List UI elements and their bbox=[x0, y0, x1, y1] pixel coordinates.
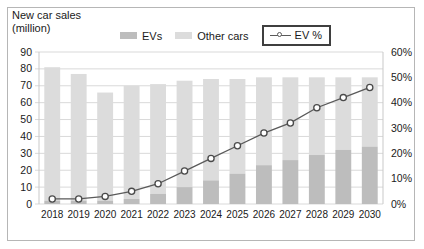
legend-swatch-evs bbox=[120, 32, 137, 39]
legend-item-ev-percent[interactable]: EV % bbox=[262, 25, 332, 46]
legend-item-other-cars[interactable]: Other cars bbox=[175, 30, 248, 42]
chart-axis-title: New car sales (million) bbox=[12, 9, 81, 35]
legend-label-ev-percent: EV % bbox=[295, 29, 323, 41]
legend-line-marker-icon bbox=[270, 31, 291, 40]
legend-label-evs: EVs bbox=[142, 30, 162, 42]
chart-legend: EVs Other cars EV % bbox=[120, 26, 331, 45]
legend-label-other-cars: Other cars bbox=[197, 30, 248, 42]
chart-container: New car sales (million) EVs Other cars E… bbox=[0, 0, 424, 249]
legend-item-evs[interactable]: EVs bbox=[120, 30, 162, 42]
legend-swatch-other-cars bbox=[175, 32, 192, 39]
